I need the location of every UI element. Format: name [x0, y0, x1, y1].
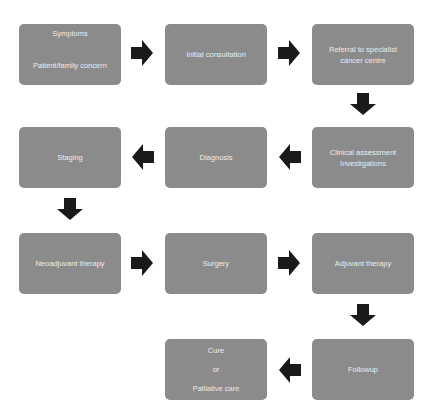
node-label: Initial consultation [186, 49, 246, 60]
node-label: Clinical assessment [330, 147, 396, 158]
node-label: cancer centre [340, 55, 385, 66]
node-followup: Followup [312, 339, 414, 400]
arrow-left-icon [279, 357, 301, 383]
arrow-left-icon [279, 144, 301, 170]
node-label: Referral to specialist [329, 44, 397, 55]
arrow-left-icon [132, 144, 154, 170]
arrow-down-icon [350, 93, 376, 115]
node-surgery: Surgery [165, 233, 267, 294]
node-referral: Referral to specialist cancer centre [312, 24, 414, 85]
arrow-right-icon [278, 40, 300, 66]
node-symptoms: Symptoms Patient/family concern [19, 24, 121, 85]
node-staging: Staging [19, 127, 121, 188]
node-label: Symptoms [52, 28, 87, 39]
node-neoadjuvant-therapy: Neoadjuvant therapy [19, 233, 121, 294]
arrow-down-icon [350, 304, 376, 326]
node-clinical-assessment: Clinical assessment Investigations [312, 127, 414, 188]
node-label: Neoadjuvant therapy [35, 258, 104, 269]
node-label: Patient/family concern [33, 60, 107, 71]
node-diagnosis: Diagnosis [165, 127, 267, 188]
node-label: Followup [348, 364, 378, 375]
node-label: Investigations [340, 158, 386, 169]
arrow-right-icon [131, 250, 153, 276]
node-label: Cure [208, 345, 224, 356]
arrow-down-icon [57, 198, 83, 220]
node-label: Staging [57, 152, 82, 163]
node-label: or [213, 364, 220, 375]
arrow-right-icon [278, 250, 300, 276]
node-label: Palliative care [193, 383, 240, 394]
arrow-right-icon [131, 40, 153, 66]
node-label: Adjuvant therapy [335, 258, 391, 269]
node-label: Diagnosis [200, 152, 233, 163]
node-adjuvant-therapy: Adjuvant therapy [312, 233, 414, 294]
node-outcome: Cure or Palliative care [165, 339, 267, 400]
node-label: Surgery [203, 258, 229, 269]
node-initial-consultation: Initial consultation [165, 24, 267, 85]
